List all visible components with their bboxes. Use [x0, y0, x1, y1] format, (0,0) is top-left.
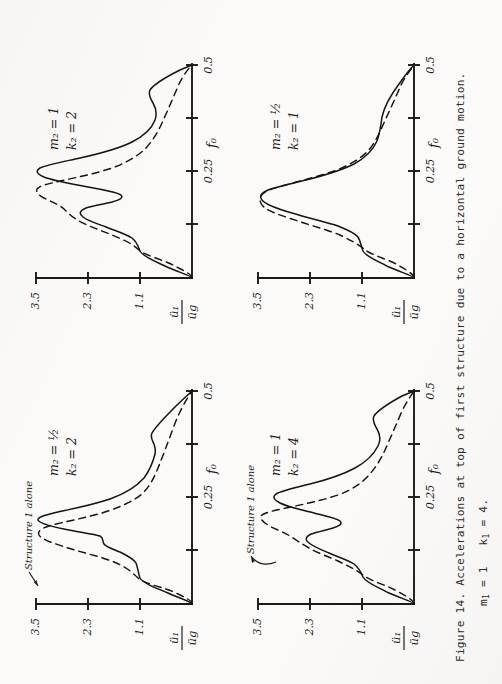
param-m2: m₂ = 1	[268, 433, 283, 476]
y-axis-label: ü₁ üg	[389, 626, 421, 650]
param-m2: m₂ = 1	[46, 107, 61, 150]
y-tick-label-2: 1.1	[133, 618, 146, 636]
caption-m-symbol: m	[477, 599, 490, 606]
param-m2: m₂ = ½	[268, 103, 283, 150]
x-axis-label: f₀	[426, 137, 441, 149]
curve-dashed-top-right	[37, 65, 192, 278]
y-tick-label-1: 2.3	[303, 618, 316, 637]
figure-container: 3.5 2.3 1.1 0.25 0.5 f₀ ü₁ üg m₂ = ½ k…	[0, 0, 502, 684]
x-tick-label-1: 0.5	[202, 382, 215, 400]
x-tick-label-1: 0.5	[424, 56, 437, 74]
axes-top-left	[36, 390, 198, 610]
y-axis-label: ü₁ üg	[389, 300, 421, 324]
x-tick-label-0: 0.25	[202, 159, 215, 184]
curve-solid-top-left	[38, 391, 192, 604]
caption-m-value: = 1	[477, 566, 490, 587]
x-tick-label-0: 0.25	[202, 485, 215, 510]
y-axis-label-denominator: üg	[407, 305, 421, 320]
curve-solid-bottom-right	[261, 65, 414, 278]
structure-alone-leader	[251, 556, 276, 564]
axes-bottom-left	[258, 390, 420, 610]
plot-panel-bottom-left: 3.5 2.3 1.1 0.25 0.5 f₀ ü₁ üg m₂ = 1 k…	[238, 362, 453, 662]
y-tick-label-0: 3.5	[29, 618, 42, 636]
y-tick-label-2: 1.1	[355, 292, 368, 310]
caption-k-subscript: 1	[482, 534, 491, 539]
axes-top-right	[36, 64, 198, 284]
param-k2: k₂ = 2	[64, 437, 79, 476]
axes-bottom-right	[258, 64, 420, 284]
x-tick-label-0: 0.25	[424, 159, 437, 184]
y-axis-label: ü₁ üg	[167, 626, 199, 650]
x-axis-label: f₀	[426, 463, 441, 475]
param-k2: k₂ = 4	[286, 437, 301, 476]
y-axis-label-numerator: ü₁	[389, 632, 403, 644]
x-tick-label-1: 0.5	[424, 382, 437, 400]
y-axis-label: ü₁ üg	[167, 300, 199, 324]
x-tick-label-0: 0.25	[424, 485, 437, 510]
rotated-page-content: 3.5 2.3 1.1 0.25 0.5 f₀ ü₁ üg m₂ = ½ k…	[0, 0, 502, 684]
curve-dashed-bottom-left	[261, 391, 414, 604]
structure-alone-annotation: Structure 1 alone	[245, 465, 256, 554]
y-axis-label-denominator: üg	[185, 305, 199, 320]
param-k2: k₂ = 1	[286, 111, 301, 150]
y-tick-label-0: 3.5	[251, 292, 264, 310]
x-tick-label-1: 0.5	[202, 56, 215, 74]
figure-caption-line1: Figure 14. Accelerations at top of first…	[452, 22, 469, 662]
y-tick-label-2: 1.1	[355, 618, 368, 636]
y-axis-label-numerator: ü₁	[389, 306, 403, 318]
y-tick-label-0: 3.5	[251, 618, 264, 636]
y-axis-label-denominator: üg	[185, 631, 199, 646]
plot-panel-bottom-right: 3.5 2.3 1.1 0.25 0.5 f₀ ü₁ üg m₂ = ½ k…	[238, 36, 453, 336]
figure-caption-line2: m1 = 1 k1 = 4.	[475, 22, 492, 606]
y-tick-label-1: 2.3	[303, 292, 316, 311]
y-tick-label-1: 2.3	[81, 618, 94, 637]
curve-solid-top-right	[37, 65, 192, 278]
x-axis-label: f₀	[204, 137, 219, 149]
plot-panel-top-right: 3.5 2.3 1.1 0.25 0.5 f₀ ü₁ üg m₂ = 1 k…	[16, 36, 231, 336]
plot-panel-top-left: 3.5 2.3 1.1 0.25 0.5 f₀ ü₁ üg m₂ = ½ k…	[16, 362, 231, 662]
param-k2: k₂ = 2	[64, 111, 79, 150]
caption-m-subscript: 1	[482, 594, 491, 599]
y-axis-label-numerator: ü₁	[167, 632, 181, 644]
figure-caption: Figure 14. Accelerations at top of first…	[452, 22, 493, 662]
y-axis-label-denominator: üg	[407, 631, 421, 646]
caption-k-value: = 4.	[477, 499, 490, 527]
y-tick-label-2: 1.1	[133, 292, 146, 310]
structure-alone-annotation: Structure 1 alone	[23, 481, 34, 570]
curve-solid-bottom-left	[274, 391, 414, 604]
caption-k-symbol: k	[477, 539, 490, 546]
y-tick-label-1: 2.3	[81, 292, 94, 311]
y-tick-label-0: 3.5	[29, 292, 42, 310]
param-m2: m₂ = ½	[46, 429, 61, 476]
y-axis-label-numerator: ü₁	[167, 306, 181, 318]
x-axis-label: f₀	[204, 463, 219, 475]
